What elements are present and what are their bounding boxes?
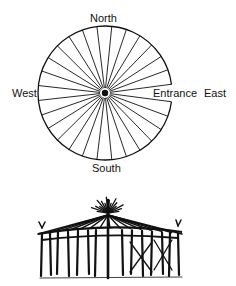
rafter-line <box>57 93 105 140</box>
rafter-line <box>105 93 152 141</box>
label-south: South <box>92 162 121 174</box>
center-pole-dot <box>102 90 108 96</box>
label-north: North <box>90 12 117 24</box>
rafter-line <box>105 45 152 93</box>
label-entrance: Entrance <box>153 87 197 99</box>
label-east: East <box>204 87 226 99</box>
rafter-line <box>57 46 105 93</box>
lodge-floor-plan <box>0 0 236 286</box>
lodge-illustration <box>38 197 182 278</box>
label-west: West <box>12 87 37 99</box>
